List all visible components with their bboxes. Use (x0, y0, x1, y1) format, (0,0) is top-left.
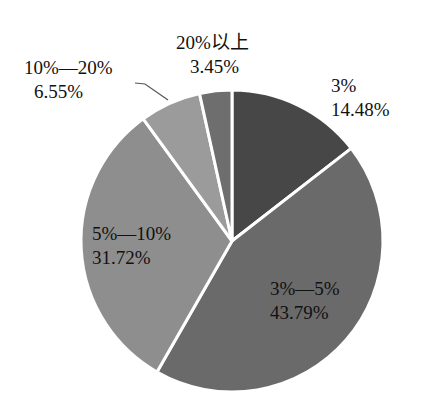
label-category: 3%—5% (270, 277, 340, 301)
label-slice-10-20: 10%—20% 6.55% (24, 56, 113, 104)
label-category: 5%—10% (92, 222, 171, 246)
label-percent: 43.79% (270, 301, 340, 325)
label-percent: 31.72% (92, 246, 171, 270)
leader-lines (135, 83, 168, 100)
label-percent: 14.48% (331, 98, 390, 122)
label-slice-3-5: 3%—5% 43.79% (270, 277, 340, 325)
label-category: 20%以上 (176, 31, 249, 55)
label-percent: 6.55% (24, 80, 113, 104)
label-category: 10%—20% (24, 56, 113, 80)
label-slice-5-10: 5%—10% 31.72% (92, 222, 171, 270)
label-slice-20-plus: 20%以上 3.45% (176, 31, 249, 79)
label-category: 3% (331, 74, 390, 98)
label-slice-3: 3% 14.48% (331, 74, 390, 122)
label-percent: 3.45% (176, 55, 249, 79)
leader-line-0 (135, 83, 168, 100)
